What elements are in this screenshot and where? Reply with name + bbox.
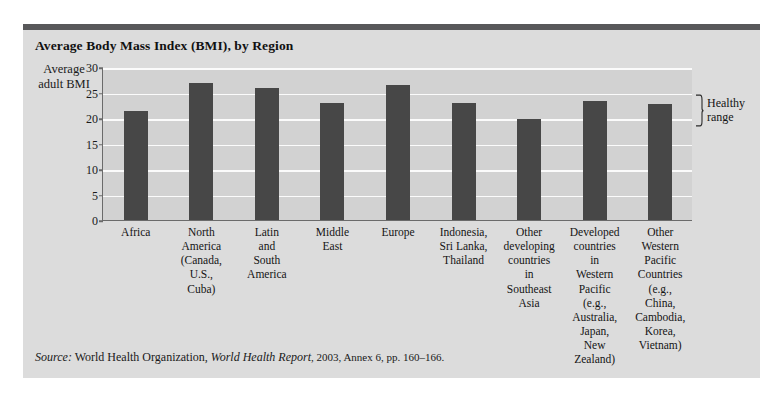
healthy-range-annotation: Healthyrange	[695, 94, 745, 127]
source-publication: World Health Report	[211, 350, 311, 364]
y-tick-label: 25	[86, 86, 98, 101]
y-tick-label: 15	[86, 137, 98, 152]
bar	[255, 88, 279, 220]
source-details: , 2003, Annex 6, pp. 160–166.	[311, 351, 444, 363]
source-note: Source: World Health Organization, World…	[35, 350, 444, 365]
bar	[583, 101, 607, 220]
x-category-label: NorthAmerica(Canada,U.S.,Cuba)	[164, 225, 238, 296]
y-tick-mark	[99, 67, 103, 69]
y-tick-mark	[99, 195, 103, 197]
bar	[189, 83, 213, 220]
y-tick-mark	[99, 144, 103, 146]
x-category-label: Europe	[361, 225, 435, 239]
healthy-range-label: Healthyrange	[707, 96, 745, 125]
y-tick-label: 10	[86, 163, 98, 178]
chart-title: Average Body Mass Index (BMI), by Region	[35, 38, 293, 54]
gridline	[103, 68, 692, 70]
y-tick-label: 20	[86, 112, 98, 127]
source-prefix: Source:	[35, 350, 72, 364]
brace-icon	[695, 94, 704, 127]
bar	[386, 85, 410, 220]
y-tick-mark	[99, 93, 103, 95]
y-tick-label: 0	[92, 214, 98, 229]
source-organization: World Health Organization,	[75, 350, 208, 364]
x-category-label: LatinandSouthAmerica	[230, 225, 304, 282]
x-category-label: OtherWesternPacificCountries(e.g.,China,…	[623, 225, 697, 352]
bar	[517, 119, 541, 220]
plot-wrapper: 051015202530 AfricaNorthAmerica(Canada,U…	[102, 68, 692, 221]
bar	[320, 103, 344, 220]
bar	[648, 104, 672, 220]
x-category-label: Africa	[99, 225, 173, 239]
figure-panel: Average Body Mass Index (BMI), by Region…	[23, 24, 760, 378]
x-category-label: MiddleEast	[295, 225, 369, 253]
x-category-label: Indonesia,Sri Lanka,Thailand	[427, 225, 501, 267]
y-tick-label: 30	[86, 61, 98, 76]
y-tick-label: 5	[92, 188, 98, 203]
y-tick-mark	[99, 118, 103, 120]
x-category-label: DevelopedcountriesinWesternPacific(e.g.,…	[558, 225, 632, 366]
y-tick-mark	[99, 220, 103, 222]
bar	[124, 111, 148, 220]
panel-top-rule	[23, 24, 760, 30]
y-tick-mark	[99, 169, 103, 171]
plot-area: 051015202530 AfricaNorthAmerica(Canada,U…	[102, 68, 692, 221]
bar	[452, 103, 476, 220]
x-category-label: OtherdevelopingcountriesinSoutheastAsia	[492, 225, 566, 310]
